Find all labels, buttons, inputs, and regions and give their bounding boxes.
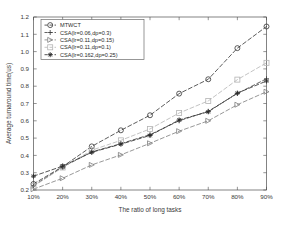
x-axis-title: The ratio of long tasks <box>119 206 182 214</box>
chart-figure: 0.20.30.40.50.60.70.80.91.01.11.2 10%20%… <box>0 0 283 233</box>
series-1 <box>31 76 269 188</box>
y-axis-title: Average turnaround time(us) <box>5 63 13 144</box>
y-tick-label: 0.8 <box>20 82 29 89</box>
x-tick-label: 20% <box>56 193 69 200</box>
legend-item-label: CSA(lr=0.11,dp=0.15) <box>60 37 114 43</box>
series-line <box>34 92 267 189</box>
y-tick-label: 0.7 <box>20 100 29 107</box>
y-tick-label: 0.5 <box>20 134 29 141</box>
legend-item-label: CSA(lr=0.06,dp=0.3) <box>60 30 111 36</box>
x-tick-label: 50% <box>144 193 157 200</box>
x-tick-label: 10% <box>27 193 40 200</box>
line-chart: 0.20.30.40.50.60.70.80.91.01.11.2 10%20%… <box>0 0 283 233</box>
legend-item-label: CSA(lr=0.11,dp=0.1) <box>60 44 111 50</box>
x-tick-label: 30% <box>86 193 99 200</box>
x-tick-label: 90% <box>260 193 273 200</box>
y-tick-label: 1.1 <box>20 31 29 38</box>
y-tick-label: 0.9 <box>20 65 29 72</box>
series-3 <box>31 60 269 188</box>
y-tick-label: 1.0 <box>20 48 29 55</box>
legend-item-label: CSA(lr=0.162,dp=0.25) <box>60 52 118 58</box>
x-tick-label: 40% <box>115 193 128 200</box>
x-tick-label: 70% <box>202 193 215 200</box>
series-line <box>34 63 267 186</box>
legend-item-label: MTWCT <box>60 22 81 28</box>
y-tick-label: 0.4 <box>20 152 29 159</box>
series-2 <box>31 89 269 191</box>
x-tick-label: 80% <box>231 193 244 200</box>
x-tick-label: 60% <box>173 193 186 200</box>
y-tick-label: 0.6 <box>20 117 29 124</box>
chart-legend: MTWCTCSA(lr=0.06,dp=0.3)CSA(lr=0.11,dp=0… <box>41 20 144 60</box>
y-tick-label: 0.3 <box>20 169 29 176</box>
y-tick-label: 1.2 <box>20 13 29 20</box>
